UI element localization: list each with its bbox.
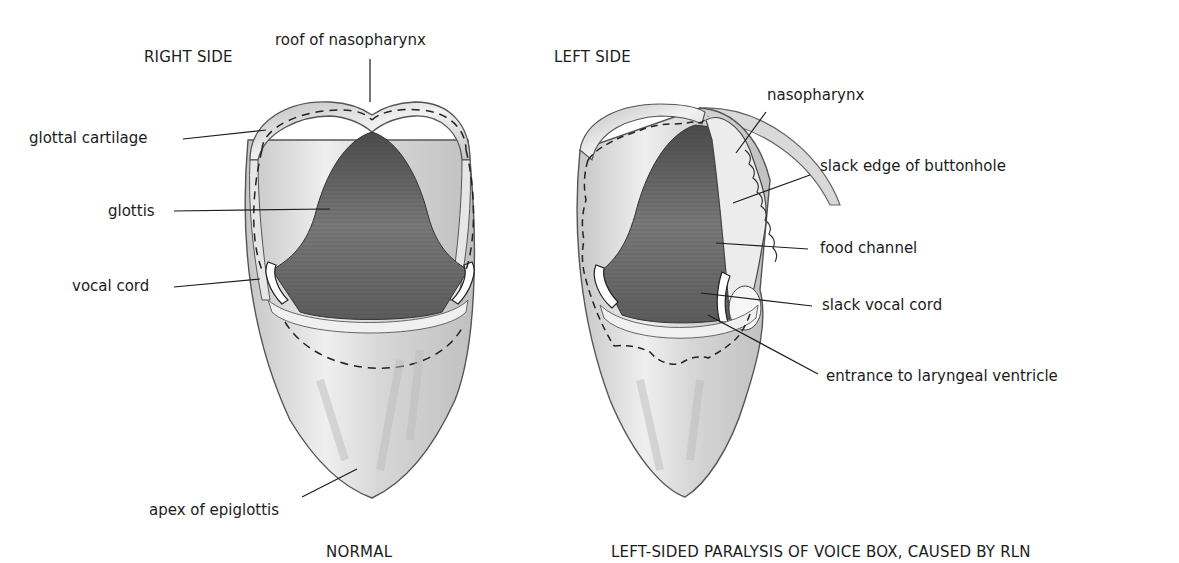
label-roof-of-nasopharynx: roof of nasopharynx: [275, 33, 426, 48]
label-slack-vocal-cord: slack vocal cord: [822, 298, 942, 313]
label-glottal-cartilage: glottal cartilage: [29, 131, 148, 146]
label-nasopharynx: nasopharynx: [767, 88, 864, 103]
right-side-heading: RIGHT SIDE: [144, 50, 233, 65]
label-entrance-to-laryngeal-ventricle: entrance to laryngeal ventricle: [826, 369, 1058, 384]
paralysis-larynx-drawing: [577, 104, 840, 497]
larynx-illustrations: [0, 0, 1179, 563]
label-vocal-cord: vocal cord: [72, 279, 149, 294]
label-food-channel: food channel: [820, 241, 917, 256]
label-apex-of-epiglottis: apex of epiglottis: [149, 503, 279, 518]
caption-paralysis: LEFT-SIDED PARALYSIS OF VOICE BOX, CAUSE…: [611, 545, 1031, 560]
label-glottis: glottis: [108, 204, 155, 219]
normal-larynx-drawing: [245, 102, 474, 498]
left-side-heading: LEFT SIDE: [554, 50, 631, 65]
label-slack-edge-of-buttonhole: slack edge of buttonhole: [820, 159, 1006, 174]
caption-normal: NORMAL: [326, 545, 392, 560]
